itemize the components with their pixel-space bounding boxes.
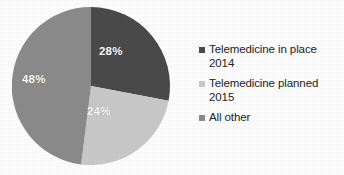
pie-chart-plot <box>12 7 170 165</box>
legend-item-telemedicine-in-place-2014[interactable]: Telemedicine in place 2014 <box>199 43 341 70</box>
legend-item-all-other[interactable]: All other <box>199 111 341 125</box>
pie-slice-label-2: 48% <box>22 73 46 85</box>
legend-item-telemedicine-planned-2015[interactable]: Telemedicine planned 2015 <box>199 77 341 104</box>
pie-slice-all-other[interactable] <box>12 7 91 164</box>
pie-chart-figure: 28% 24% 48% Telemedicine in place 2014 T… <box>0 0 344 175</box>
legend-swatch-icon-1 <box>199 81 205 87</box>
pie-slice-label-1: 24% <box>87 105 111 117</box>
legend-label-2: All other <box>209 111 250 125</box>
legend-swatch-icon-2 <box>199 115 205 121</box>
legend-label-1: Telemedicine planned 2015 <box>209 77 341 104</box>
pie-slice-label-0: 28% <box>99 45 123 57</box>
legend-label-0: Telemedicine in place 2014 <box>209 43 341 70</box>
legend-swatch-icon-0 <box>199 47 205 53</box>
pie-svg <box>12 7 170 165</box>
chart-legend: Telemedicine in place 2014 Telemedicine … <box>199 43 341 132</box>
